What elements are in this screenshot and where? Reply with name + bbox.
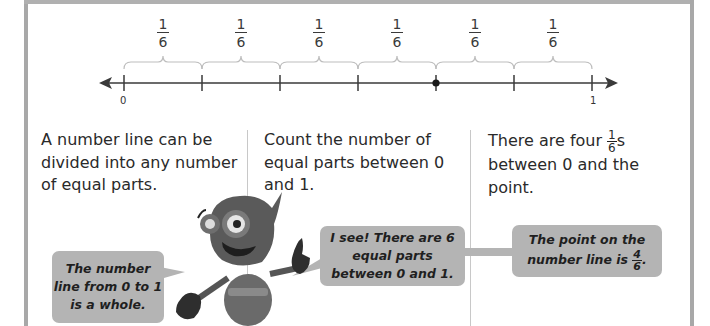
inline-fraction-answer: 46 bbox=[632, 249, 642, 272]
speech-bubble-middle: I see! There are 6 equal parts between 0… bbox=[320, 226, 465, 286]
speech-bubble-right: The point on the number line is 46. bbox=[512, 225, 662, 277]
robot-mascot bbox=[170, 188, 330, 326]
speech-bubble-left: The number line from 0 to 1 is a whole. bbox=[52, 251, 164, 323]
